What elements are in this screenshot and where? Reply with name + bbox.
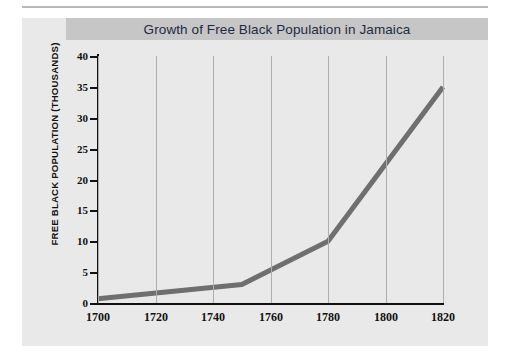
gridline-x-1820 xyxy=(443,56,444,303)
y-tick-label-35: 35 xyxy=(77,82,88,92)
y-tick-mark-30 xyxy=(90,118,98,120)
y-tick-label-25: 25 xyxy=(77,144,88,154)
chart-figure: Growth of Free Black Population in Jamai… xyxy=(22,18,488,346)
y-tick-mark-0 xyxy=(90,303,98,305)
y-tick-label-20: 20 xyxy=(77,175,88,185)
y-tick-label-40: 40 xyxy=(77,51,88,61)
x-tick-label-1700: 1700 xyxy=(68,310,128,325)
y-tick-label-group: 0510152025303540 xyxy=(58,18,88,346)
gridline-x-1740 xyxy=(213,56,214,303)
y-tick-mark-15 xyxy=(90,210,98,212)
x-tick-label-1780: 1780 xyxy=(298,310,358,325)
x-tick-label-1800: 1800 xyxy=(356,310,416,325)
y-tick-label-30: 30 xyxy=(77,113,88,123)
x-tick-label-1720: 1720 xyxy=(126,310,186,325)
y-tick-label-15: 15 xyxy=(77,205,88,215)
y-tick-mark-20 xyxy=(90,180,98,182)
gridline-x-1780 xyxy=(328,56,329,303)
y-tick-mark-35 xyxy=(90,87,98,89)
plot-area xyxy=(98,56,443,303)
y-tick-mark-10 xyxy=(90,241,98,243)
x-tick-label-1760: 1760 xyxy=(241,310,301,325)
y-tick-label-5: 5 xyxy=(83,267,89,277)
top-rule xyxy=(22,6,488,8)
y-tick-mark-40 xyxy=(90,56,98,58)
chart-title-band: Growth of Free Black Population in Jamai… xyxy=(66,18,488,40)
y-tick-mark-5 xyxy=(90,272,98,274)
x-axis-line xyxy=(97,303,444,305)
gridline-x-1800 xyxy=(386,56,387,303)
y-tick-label-0: 0 xyxy=(83,298,89,308)
y-tick-mark-25 xyxy=(90,149,98,151)
y-tick-label-10: 10 xyxy=(77,236,88,246)
x-tick-label-1820: 1820 xyxy=(413,310,473,325)
chart-title: Growth of Free Black Population in Jamai… xyxy=(144,22,411,37)
gridline-x-1760 xyxy=(271,56,272,303)
gridline-x-1720 xyxy=(156,56,157,303)
gridline-x-1700 xyxy=(98,56,99,303)
x-tick-label-1740: 1740 xyxy=(183,310,243,325)
